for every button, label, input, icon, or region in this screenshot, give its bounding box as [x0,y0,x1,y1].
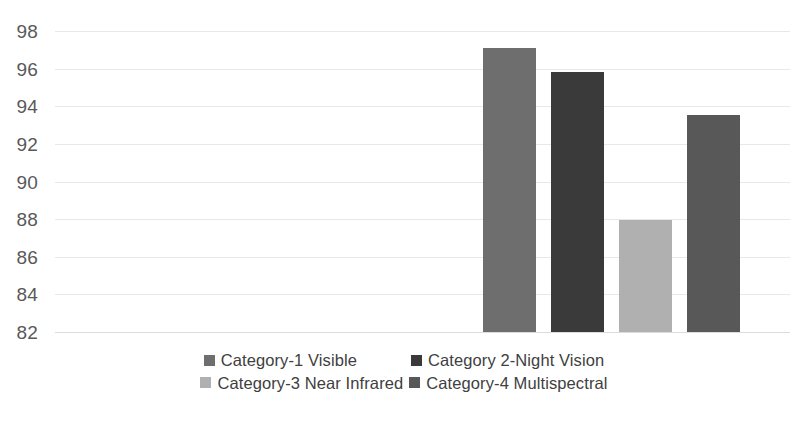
legend-swatch-icon [411,355,422,366]
legend-item-label: Category-3 Near Infrared [217,375,403,392]
gridline [55,332,790,333]
legend-item[interactable]: Category 2-Night Vision [411,352,604,369]
legend-swatch-icon [409,377,420,388]
bars-container [55,31,790,332]
bar-1[interactable] [483,48,536,332]
legend-item-label: Category-4 Multispectral [426,375,607,392]
y-axis-tick-label: 96 [16,59,38,78]
bar-2[interactable] [551,72,604,332]
y-axis-tick-label: 88 [16,210,38,229]
y-axis-tick-label: 82 [16,323,38,342]
chart-legend: Category-1 VisibleCategory 2-Night Visio… [0,352,808,391]
legend-item-label: Category 2-Night Vision [428,352,604,369]
bar-chart: 989694929088868482 Category-1 VisibleCat… [0,0,808,436]
y-axis-tick-label: 92 [16,134,38,153]
y-axis-tick-label: 86 [16,247,38,266]
legend-item-label: Category-1 Visible [221,352,357,369]
y-axis-tick-label: 94 [16,97,38,116]
legend-swatch-icon [200,377,211,388]
legend-row: Category-3 Near InfraredCategory-4 Multi… [200,375,607,392]
bar-4[interactable] [687,115,740,332]
legend-swatch-icon [204,355,215,366]
y-axis-labels: 989694929088868482 [0,31,48,332]
legend-row: Category-1 VisibleCategory 2-Night Visio… [204,352,605,369]
legend-item[interactable]: Category-1 Visible [204,352,357,369]
legend-item[interactable]: Category-4 Multispectral [409,375,607,392]
y-axis-tick-label: 84 [16,285,38,304]
y-axis-tick-label: 90 [16,172,38,191]
legend-item[interactable]: Category-3 Near Infrared [200,375,403,392]
y-axis-tick-label: 98 [16,22,38,41]
bar-3[interactable] [619,220,672,332]
